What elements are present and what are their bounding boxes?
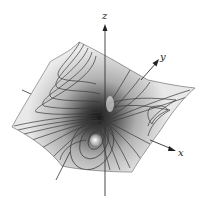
- x-axis: [150, 140, 176, 151]
- z-axis-label: z: [102, 11, 107, 21]
- surface: [12, 42, 195, 178]
- y-axis-label: y: [160, 52, 166, 62]
- y-axis: [141, 59, 159, 80]
- x-axis-label: x: [178, 148, 184, 158]
- surface-plot-figure: z y x: [0, 0, 203, 202]
- surface-plot-canvas: [0, 0, 203, 202]
